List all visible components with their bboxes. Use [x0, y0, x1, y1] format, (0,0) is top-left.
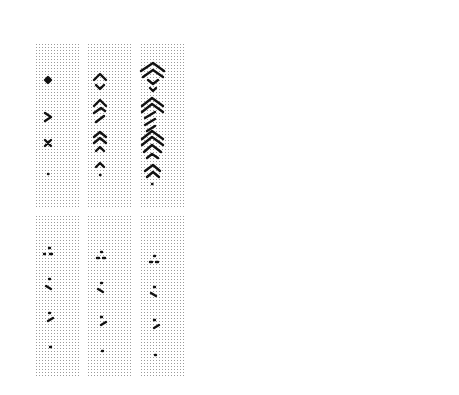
zigzag-patterns-bottom [0, 0, 459, 395]
